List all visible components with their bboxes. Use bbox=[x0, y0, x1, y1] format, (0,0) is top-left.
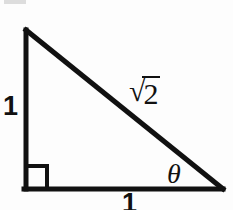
hypotenuse-line bbox=[26, 30, 223, 189]
horizontal-leg-label: 1 bbox=[122, 190, 137, 210]
square-root-expression: √2 bbox=[129, 76, 160, 109]
vertical-leg-label: 1 bbox=[3, 93, 18, 120]
angle-theta-label: θ bbox=[167, 160, 181, 188]
triangle-figure: 1 1 √2 θ bbox=[0, 0, 233, 210]
triangle-drawing bbox=[0, 0, 233, 210]
hypotenuse-label: √2 bbox=[129, 76, 160, 109]
radicand-value: 2 bbox=[142, 76, 160, 109]
right-angle-marker bbox=[26, 166, 47, 188]
